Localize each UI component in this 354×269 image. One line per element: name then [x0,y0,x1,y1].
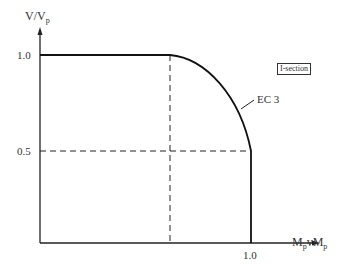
y-tick-05: 0.5 [17,146,31,157]
ec3-leader-line [241,100,254,109]
y-tick-1: 1.0 [17,50,31,61]
ec3-label: EC 3 [257,94,279,105]
x-tick-1: 1.0 [243,250,257,261]
interaction-diagram [0,0,354,269]
y-axis-label: V/Vp [25,10,50,22]
ec3-curve [40,55,251,243]
y-axis-arrow-icon [38,27,43,35]
i-section-label: I-section [277,63,311,75]
x-axis-label: MpvMp [292,236,327,248]
